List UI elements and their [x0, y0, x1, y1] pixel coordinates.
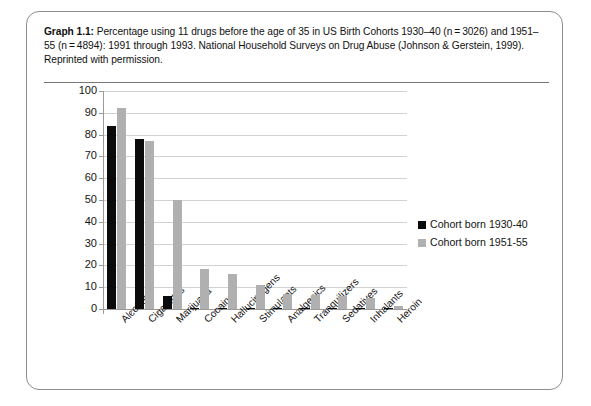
- gridline: [103, 113, 407, 114]
- x-axis-tick: [158, 310, 159, 314]
- x-axis-tick: [103, 310, 104, 314]
- bar-cigarettes-series-2: [145, 141, 154, 309]
- y-axis-tick-label: 80: [57, 128, 97, 140]
- bar-tranquilizers-series-1: [301, 308, 310, 309]
- bar-sedatives-series-1: [328, 308, 337, 309]
- bar-chart: 0102030405060708090100AlcoholCigarettesM…: [27, 12, 564, 391]
- bar-tranquilizers-series-2: [311, 295, 320, 309]
- bar-alcohol-series-1: [107, 126, 116, 309]
- legend-swatch-series-2: [418, 239, 426, 247]
- bar-heroin-series-1: [384, 308, 393, 309]
- bar-inhalants-series-2: [366, 298, 375, 309]
- y-axis-tick-label: 30: [57, 237, 97, 249]
- legend-swatch-series-1: [418, 221, 426, 229]
- bar-stimulants-series-2: [256, 285, 265, 309]
- x-axis-tick: [296, 310, 297, 314]
- y-axis-tick-label: 90: [57, 106, 97, 118]
- x-axis-tick: [324, 310, 325, 314]
- x-axis-tick: [352, 310, 353, 314]
- y-axis-line: [103, 91, 104, 310]
- bar-sedatives-series-2: [338, 296, 347, 309]
- bar-cocaine-series-1: [190, 308, 199, 309]
- legend-label-series-1: Cohort born 1930-40: [430, 218, 528, 230]
- bar-marijuana-series-2: [173, 200, 182, 309]
- x-axis-tick: [379, 310, 380, 314]
- x-axis-tick: [241, 310, 242, 314]
- y-axis-tick-label: 60: [57, 171, 97, 183]
- bar-hallucinogens-series-1: [218, 308, 227, 309]
- bar-alcohol-series-2: [117, 108, 126, 309]
- y-axis-tick-label: 40: [57, 215, 97, 227]
- legend-label-series-2: Cohort born 1951-55: [430, 236, 528, 248]
- gridline: [103, 91, 407, 92]
- bar-cigarettes-series-1: [135, 139, 144, 309]
- figure-container: Graph 1.1: Percentage using 11 drugs bef…: [26, 11, 563, 390]
- y-axis-tick-label: 20: [57, 258, 97, 270]
- y-axis-tick-label: 10: [57, 280, 97, 292]
- y-axis-tick-label: 50: [57, 193, 97, 205]
- x-axis-tick: [214, 310, 215, 314]
- bar-cocaine-series-2: [200, 269, 209, 309]
- bar-hallucinogens-series-2: [228, 274, 237, 309]
- bar-analgesics-series-2: [283, 294, 292, 309]
- x-axis-tick: [131, 310, 132, 314]
- bar-stimulants-series-1: [246, 308, 255, 309]
- x-axis-tick: [186, 310, 187, 314]
- y-axis-tick-label: 70: [57, 149, 97, 161]
- bar-analgesics-series-1: [273, 308, 282, 309]
- y-axis-tick-label: 100: [57, 84, 97, 96]
- y-axis-tick-label: 0: [57, 302, 97, 314]
- bar-heroin-series-2: [394, 306, 403, 309]
- gridline: [103, 135, 407, 136]
- bar-inhalants-series-1: [356, 308, 365, 309]
- bar-marijuana-series-1: [163, 296, 172, 309]
- x-axis-tick: [269, 310, 270, 314]
